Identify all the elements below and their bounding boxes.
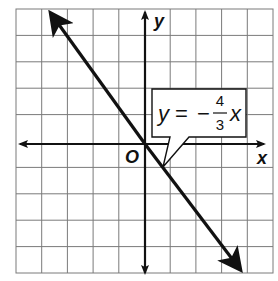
callout-denominator: 3	[216, 116, 224, 133]
callout-var: x	[229, 101, 242, 126]
callout-equals: =	[175, 101, 188, 126]
y-axis-label: y	[153, 11, 165, 31]
equation-callout: y = − 4 3 x	[152, 89, 246, 167]
callout-lhs: y	[156, 101, 171, 126]
callout-numerator: 4	[216, 92, 224, 109]
callout-sign: −	[197, 101, 210, 126]
origin-label: O	[125, 147, 139, 167]
x-axis-label: x	[256, 148, 268, 168]
coordinate-plane: y = − 4 3 x y x O	[0, 0, 278, 281]
